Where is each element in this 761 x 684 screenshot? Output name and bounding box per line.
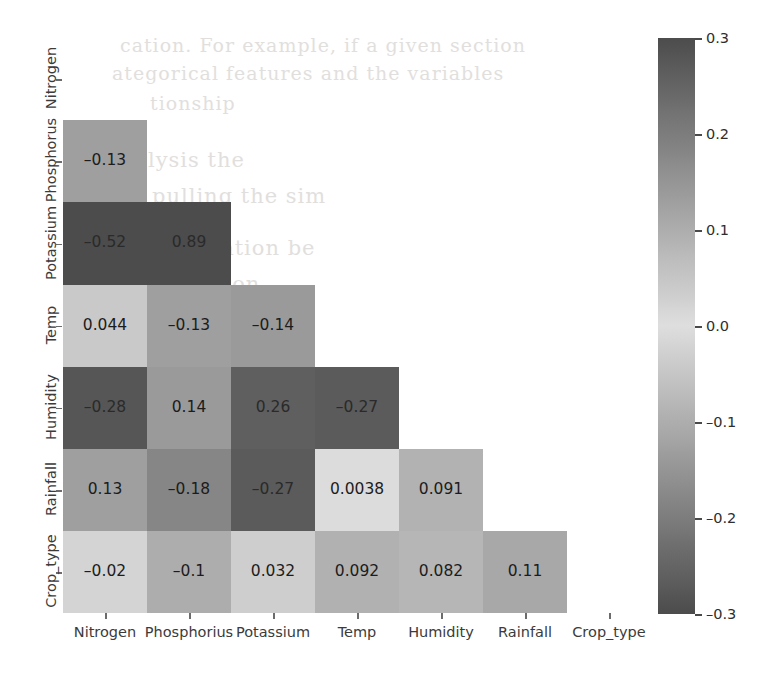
heatmap-cell: –0.13 bbox=[63, 120, 147, 202]
cell-value-label: –0.02 bbox=[63, 565, 147, 581]
heatmap-cell: 0.11 bbox=[483, 531, 567, 613]
colorbar-tick bbox=[695, 326, 702, 328]
heatmap-cell: –0.27 bbox=[231, 449, 315, 531]
heatmap-cell: –0.02 bbox=[63, 531, 147, 613]
cell-value-label: 0.11 bbox=[483, 565, 567, 581]
cell-value-label: 0.044 bbox=[63, 318, 147, 334]
colorbar-tick bbox=[695, 422, 702, 424]
heatmap-cell: –0.27 bbox=[315, 367, 399, 449]
heatmap-cell: –0.14 bbox=[231, 285, 315, 367]
heatmap-cell: –0.28 bbox=[63, 367, 147, 449]
colorbar-tick bbox=[695, 134, 702, 136]
y-axis-label: Crop_type bbox=[43, 511, 59, 631]
heatmap-cell: 0.13 bbox=[63, 449, 147, 531]
heatmap-cell: 0.032 bbox=[231, 531, 315, 613]
colorbar-tick-label: 0.2 bbox=[706, 126, 729, 142]
cell-value-label: –0.18 bbox=[147, 482, 231, 498]
colorbar-tick-label: –0.2 bbox=[706, 510, 736, 526]
heatmap-page: cation. For example, if a given sectiona… bbox=[0, 0, 761, 684]
cell-value-label: 0.032 bbox=[231, 565, 315, 581]
cell-value-label: –0.27 bbox=[315, 400, 399, 416]
heatmap-cell: 0.0038 bbox=[315, 449, 399, 531]
heatmap-cell: 0.14 bbox=[147, 367, 231, 449]
colorbar-tick-label: –0.1 bbox=[706, 414, 736, 430]
x-axis-tick bbox=[189, 613, 191, 619]
correlation-heatmap-figure: –0.13–0.520.890.044–0.13–0.14–0.280.140.… bbox=[0, 0, 761, 684]
cell-value-label: 0.092 bbox=[315, 565, 399, 581]
cell-value-label: 0.14 bbox=[147, 400, 231, 416]
heatmap-cell: –0.52 bbox=[63, 202, 147, 284]
heatmap-cell: –0.18 bbox=[147, 449, 231, 531]
x-axis-tick bbox=[525, 613, 527, 619]
heatmap-cell: 0.044 bbox=[63, 285, 147, 367]
x-axis-tick bbox=[441, 613, 443, 619]
cell-value-label: –0.1 bbox=[147, 565, 231, 581]
cell-value-label: 0.26 bbox=[231, 400, 315, 416]
colorbar-tick bbox=[695, 230, 702, 232]
x-axis-label: Crop_type bbox=[544, 624, 674, 640]
colorbar-gradient bbox=[658, 38, 695, 614]
colorbar-tick bbox=[695, 38, 702, 40]
cell-value-label: –0.27 bbox=[231, 482, 315, 498]
cell-value-label: 0.13 bbox=[63, 482, 147, 498]
cell-value-label: –0.13 bbox=[147, 318, 231, 334]
cell-value-label: 0.082 bbox=[399, 565, 483, 581]
cell-value-label: 0.89 bbox=[147, 236, 231, 252]
heatmap-cell: –0.1 bbox=[147, 531, 231, 613]
colorbar-tick-label: 0.0 bbox=[706, 318, 729, 334]
heatmap-cell: –0.13 bbox=[147, 285, 231, 367]
heatmap-cell: 0.26 bbox=[231, 367, 315, 449]
colorbar-tick bbox=[695, 518, 702, 520]
cell-value-label: –0.13 bbox=[63, 154, 147, 170]
heatmap-cell: 0.091 bbox=[399, 449, 483, 531]
cell-value-label: –0.52 bbox=[63, 236, 147, 252]
x-axis-tick bbox=[105, 613, 107, 619]
x-axis-tick bbox=[357, 613, 359, 619]
colorbar: 0.30.20.10.0–0.1–0.2–0.3 bbox=[658, 38, 695, 614]
heatmap-cell: 0.89 bbox=[147, 202, 231, 284]
cell-value-label: 0.0038 bbox=[315, 482, 399, 498]
colorbar-tick bbox=[695, 614, 702, 616]
x-axis-tick bbox=[273, 613, 275, 619]
colorbar-tick-label: 0.3 bbox=[706, 30, 729, 46]
heatmap-cell: 0.092 bbox=[315, 531, 399, 613]
cell-value-label: –0.28 bbox=[63, 400, 147, 416]
cell-value-label: –0.14 bbox=[231, 318, 315, 334]
cell-value-label: 0.091 bbox=[399, 482, 483, 498]
colorbar-tick-label: –0.3 bbox=[706, 606, 736, 622]
heatmap-cell: 0.082 bbox=[399, 531, 483, 613]
colorbar-tick-label: 0.1 bbox=[706, 222, 729, 238]
x-axis-tick bbox=[609, 613, 611, 619]
